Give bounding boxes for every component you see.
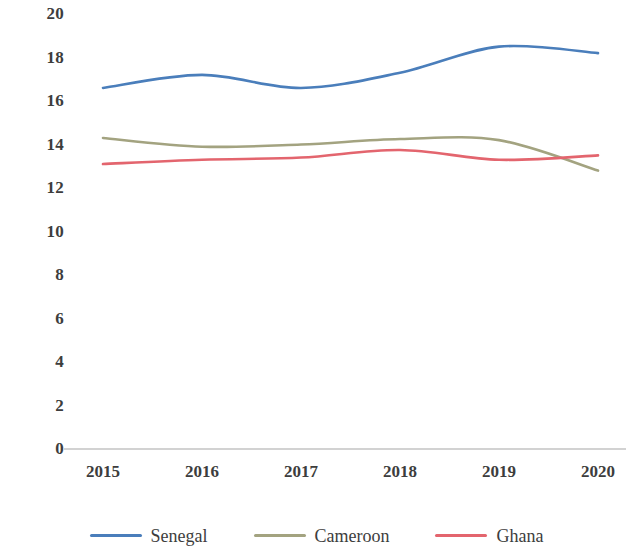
series-line-senegal	[103, 46, 598, 88]
x-axis-tick-label: 2019	[482, 462, 516, 482]
legend-item-senegal[interactable]: Senegal	[90, 527, 208, 545]
chart-legend: SenegalCameroonGhana	[0, 520, 633, 551]
x-axis-tick-label: 2017	[284, 462, 318, 482]
series-canvas	[0, 0, 633, 500]
legend-item-cameroon[interactable]: Cameroon	[254, 527, 390, 545]
legend-item-ghana[interactable]: Ghana	[435, 527, 543, 545]
x-axis-tick-labels: 201520162017201820192020	[0, 462, 633, 492]
line-chart: 20181614121086420 2015201620172018201920…	[0, 0, 633, 551]
series-line-ghana	[103, 150, 598, 164]
legend-label: Cameroon	[315, 527, 390, 545]
x-axis-tick-label: 2015	[86, 462, 120, 482]
legend-label: Ghana	[496, 527, 543, 545]
legend-label: Senegal	[151, 527, 208, 545]
plot-area: 20181614121086420	[0, 0, 633, 500]
x-axis-tick-label: 2020	[581, 462, 615, 482]
legend-swatch-icon	[90, 534, 142, 537]
x-axis-tick-label: 2018	[383, 462, 417, 482]
x-axis-tick-label: 2016	[185, 462, 219, 482]
legend-swatch-icon	[254, 534, 306, 537]
legend-swatch-icon	[435, 534, 487, 537]
